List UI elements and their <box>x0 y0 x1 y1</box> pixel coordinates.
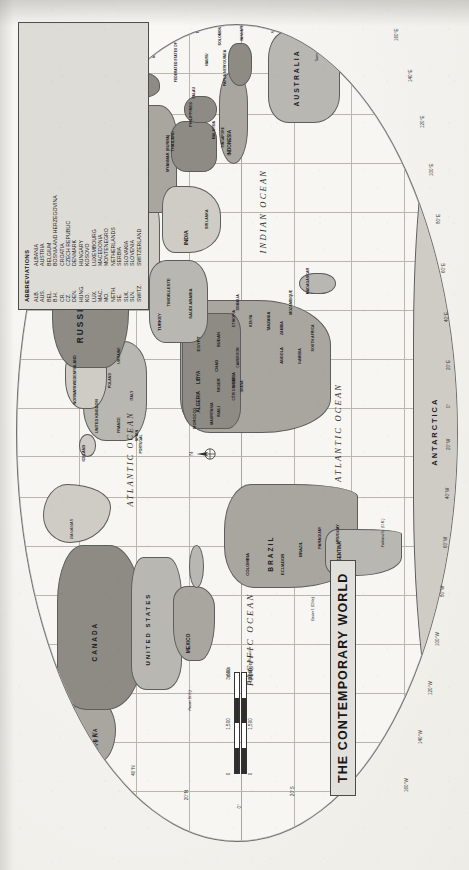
country-label-tanzania: TANZANIA <box>268 312 272 331</box>
ocean-label-atlantic-south: ATLANTIC OCEAN <box>334 383 343 482</box>
country-label-palau: PALAU <box>193 87 196 98</box>
country-label-portugal: PORTUGAL <box>140 434 143 453</box>
lon-tick-60e: 60°E <box>441 263 446 273</box>
ocean-label-indian: INDIAN OCEAN <box>259 169 268 254</box>
landmass-madagascar <box>299 273 336 295</box>
rotated-map-canvas: ARCTIC OCEAN PACIFIC OCEAN PACIFIC OCEAN… <box>0 0 469 870</box>
parallel-20s <box>294 25 295 841</box>
country-label-mali: MALI <box>217 406 221 417</box>
north-arrow-icon <box>195 441 221 467</box>
country-label-egypt: EGYPT <box>197 337 201 352</box>
country-label-tasmania: Tasmania (Austl.) <box>316 37 319 62</box>
country-label-hawaii: Hawaii (U.S.) <box>189 690 192 710</box>
country-label-chad: CHAD <box>215 360 219 372</box>
country-label-poland: POLAND <box>109 373 113 388</box>
country-label-myanmar: MYANMAR (BURMA) <box>167 135 171 172</box>
country-label-sudan: SUDAN <box>217 332 221 348</box>
scale-km-tick-0: 0 <box>248 773 253 776</box>
landmass-mexico <box>173 586 215 661</box>
lon-tick-120w: 120°W <box>428 681 433 695</box>
lon-tick-80w: 80°W <box>440 586 445 597</box>
lon-tick-20w: 20°W <box>446 439 451 450</box>
landmass-australia <box>268 31 340 123</box>
country-label-new-caledonia: New Caledonia (Fr.) <box>272 25 275 33</box>
country-label-indonesia: INDONESIA <box>228 130 233 156</box>
country-label-malaysia: MALAYSIA <box>213 121 217 139</box>
country-label-turkey: TURKEY <box>158 313 162 331</box>
map-page: ARCTIC OCEAN PACIFIC OCEAN PACIFIC OCEAN… <box>0 0 469 870</box>
country-label-bolivia: BRAZIL <box>299 542 303 557</box>
country-label-canada: CANADA <box>92 622 98 662</box>
country-label-colombia: COLOMBIA <box>246 553 250 576</box>
lon-tick-100w: 100°W <box>435 632 440 646</box>
legend-heading: ABBREVIATIONS <box>24 30 30 302</box>
scale-km-unit: kilometers <box>248 662 253 683</box>
country-label-zambia: ZAMBIA <box>281 321 285 335</box>
lon-tick-80e: 80°E <box>436 214 441 224</box>
country-label-solomon-islands: SOLOMON IS. <box>219 25 223 45</box>
landmass-canada <box>57 545 143 710</box>
lon-tick-60w: 60°W <box>443 537 448 548</box>
legend-row: SWITZ.SWITZERLAND <box>136 189 142 302</box>
country-label-france: FRANCE <box>118 417 122 433</box>
page-title: THE CONTEMPORARY WORLD <box>336 573 350 783</box>
scale-miles-tick-1500: 1,500 <box>226 718 231 730</box>
country-label-namibia: NAMIBIA <box>299 348 303 363</box>
country-label-singapore: SINGAPORE <box>222 127 225 147</box>
country-label-thailand: THAILAND <box>171 131 175 151</box>
abbreviations-legend: ABBREVIATIONS ALB.ALBANIAAUS.AUSTRIABEL.… <box>18 22 149 310</box>
country-label-mozambique: MOZAMBIQUE <box>290 290 294 315</box>
country-label-mauritania: MAURITANIA <box>211 402 215 425</box>
country-label-paraguay: PARAGUAY <box>318 527 322 549</box>
legend-name: BOSNIA AND HERZEGOVINA <box>52 189 58 266</box>
country-label-saudi-arabia: SAUDI ARABIA <box>189 288 193 318</box>
country-label-peru: ECUADOR <box>281 554 285 575</box>
scale-km-tick-1500: 1,500 <box>248 718 253 730</box>
country-label-easter-island: Easter I. (Chile) <box>312 597 315 621</box>
lon-tick-160w: 160°W <box>404 778 409 792</box>
lat-tick-20n: 20°N <box>184 790 189 800</box>
landmass-southeast-asia <box>171 121 217 172</box>
scale-km-numbers: 0 1,500 3,000 kilometers <box>248 674 256 774</box>
legend-table: ALB.ALBANIAAUS.AUSTRIABEL.BELGIUMB.H.BOS… <box>33 189 142 302</box>
lon-tick-40e: 40°E <box>444 312 449 322</box>
country-label-sweden: SWEDEN <box>74 371 78 388</box>
lat-tick-0: 0° <box>237 804 242 808</box>
country-label-sri-lanka: SRI LANKA <box>206 209 210 229</box>
country-label-somalia: SOMALIA <box>237 294 241 311</box>
country-label-india: INDIA <box>184 230 190 245</box>
equator-label: Equator <box>248 646 253 661</box>
map-title-block: THE CONTEMPORARY WORLD <box>330 560 356 796</box>
scale-miles-tick-0: 0 <box>226 773 231 776</box>
country-label-angola: ANGOLA <box>281 347 285 363</box>
lat-tick-60n: 60°N <box>74 721 79 731</box>
country-label-alaska: ALASKA <box>94 727 99 758</box>
country-label-australia: AUSTRALIA <box>294 49 301 106</box>
country-label-south-africa: SOUTH AFRICA <box>312 324 316 351</box>
country-label-mexico: MEXICO <box>186 634 191 654</box>
country-label-libya: LIBYA <box>197 371 202 384</box>
scale-bar-kilometers <box>241 672 247 774</box>
meridian-160w <box>17 791 457 792</box>
lon-tick-140e: 140°E <box>408 69 413 82</box>
continent-label-antarctica: ANTARCTICA <box>431 398 438 466</box>
country-label-niger: NIGER <box>217 378 221 392</box>
lon-tick-100e: 100°E <box>429 163 434 176</box>
country-label-greenland: BAHAMAS <box>70 519 74 539</box>
country-label-ghana: GHANA <box>241 381 244 393</box>
landmass-caribbean <box>189 545 204 588</box>
landmass-india <box>162 186 221 253</box>
lat-tick-40n: 40°N <box>131 765 136 775</box>
country-label-algeria: ALGERIA <box>197 391 202 413</box>
country-label-marshall-islands: MARSHALL IS. <box>153 34 156 58</box>
country-label-ukraine: UKRAINE <box>118 347 122 363</box>
country-label-madagascar: MADAGASCAR <box>307 268 311 294</box>
scale-bar-miles <box>234 672 240 774</box>
country-label-vanuatu: VANUATU <box>241 25 245 41</box>
country-label-morocco: MOROCCO <box>193 408 197 429</box>
scale-miles-unit: miles <box>226 667 231 678</box>
country-label-tonga: TONGA <box>409 738 413 752</box>
country-label-norway: NORWAY <box>74 388 78 405</box>
country-label-united-states: UNITED STATES <box>145 593 151 666</box>
landmass-greenland <box>43 484 111 543</box>
